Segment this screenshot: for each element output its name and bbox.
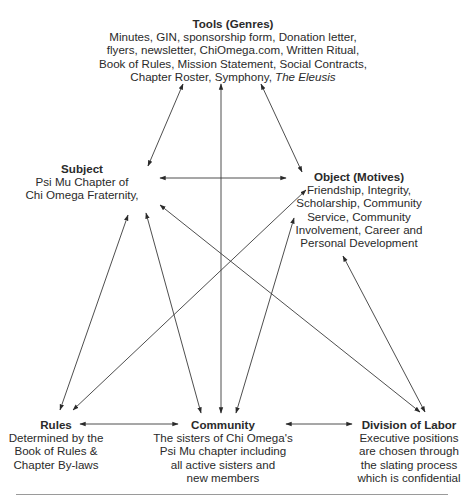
node-division-line: are chosen through — [353, 444, 465, 457]
node-tools-line-last: Chapter Roster, Symphony, The Eleusis — [95, 70, 371, 83]
node-subject-line: Psi Mu Chapter of — [22, 175, 142, 188]
node-community: Community The sisters of Chi Omega's Psi… — [150, 418, 296, 484]
node-object-line: Involvement, Career and — [292, 223, 426, 236]
node-division-title: Division of Labor — [353, 418, 465, 431]
node-division-line: the slating process — [353, 458, 465, 471]
node-community-line: The sisters of Chi Omega's — [150, 431, 296, 444]
node-tools-italic: The Eleusis — [275, 70, 336, 83]
node-object-title: Object (Motives) — [292, 170, 426, 183]
node-subject: Subject Psi Mu Chapter of Chi Omega Frat… — [22, 162, 142, 202]
node-tools-line: flyers, newsletter, ChiOmega.com, Writte… — [95, 43, 371, 56]
node-tools-line: Chapter Roster, Symphony, — [130, 70, 275, 83]
node-community-line: Psi Mu chapter including — [150, 444, 296, 457]
node-division-line: Executive positions — [353, 431, 465, 444]
edge-subject-rules — [60, 215, 128, 410]
edge-tools-object — [261, 84, 302, 172]
node-rules-title: Rules — [6, 418, 106, 431]
node-object-line: Friendship, Integrity, — [292, 183, 426, 196]
node-community-line: all active sisters and — [150, 458, 296, 471]
edge-subject-community — [146, 213, 201, 413]
edge-object-community — [236, 218, 294, 413]
node-community-line: new members — [150, 471, 296, 484]
node-rules-line: Book of Rules & — [6, 444, 106, 457]
node-object-line: Personal Development — [292, 236, 426, 249]
node-object-line: Scholarship, Community — [292, 196, 426, 209]
node-rules-line: Determined by the — [6, 431, 106, 444]
node-rules: Rules Determined by the Book of Rules & … — [6, 418, 106, 471]
node-tools: Tools (Genres) Minutes, GIN, sponsorship… — [95, 17, 371, 83]
node-object-line: Service, Community — [292, 210, 426, 223]
node-tools-line: Minutes, GIN, sponsorship form, Donation… — [95, 30, 371, 43]
node-tools-title: Tools (Genres) — [95, 17, 371, 30]
edge-tools-subject — [148, 84, 183, 166]
node-tools-line: Book of Rules, Mission Statement, Social… — [95, 57, 371, 70]
edge-object-division — [343, 256, 425, 412]
node-rules-line: Chapter By-laws — [6, 458, 106, 471]
node-object: Object (Motives) Friendship, Integrity, … — [292, 170, 426, 249]
node-subject-title: Subject — [22, 162, 142, 175]
node-subject-line: Chi Omega Fraternity, — [22, 188, 142, 201]
edge-object-rules — [73, 190, 306, 410]
node-division-line: which is confidential — [353, 471, 465, 484]
node-community-title: Community — [150, 418, 296, 431]
node-division-of-labor: Division of Labor Executive positions ar… — [353, 418, 465, 484]
bottom-divider — [16, 494, 448, 495]
